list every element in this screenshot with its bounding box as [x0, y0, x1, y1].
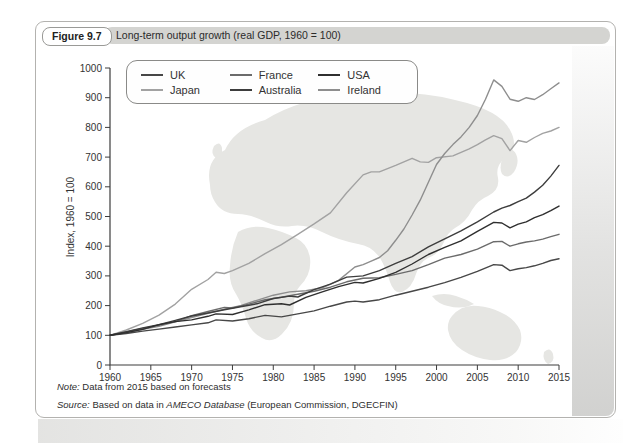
chart-source: Source: Based on data in AMECO Database … [57, 399, 398, 410]
legend-item-australia: Australia [230, 84, 319, 96]
legend-swatch-australia [230, 89, 252, 91]
legend-swatch-usa [318, 74, 340, 76]
figure-title-bar: Long-term output growth (real GDP, 1960 … [104, 27, 610, 44]
map-shape [230, 227, 311, 341]
world-map-background [209, 92, 553, 364]
note-label: Note: [57, 381, 80, 392]
y-tick-label: 800 [85, 122, 102, 133]
page: Long-term output growth (real GDP, 1960 … [0, 0, 640, 445]
y-tick-label: 0 [96, 360, 102, 371]
legend-label-ireland: Ireland [347, 84, 381, 96]
map-shape [448, 306, 521, 361]
source-post: (European Commission, DGECFIN) [245, 399, 398, 410]
x-tick-label: 2010 [507, 372, 530, 383]
chart-legend: UKFranceUSAJapanAustraliaIreland [126, 60, 418, 104]
legend-item-uk: UK [141, 69, 230, 81]
figure-title: Long-term output growth (real GDP, 1960 … [116, 29, 341, 41]
legend-swatch-japan [141, 89, 163, 91]
legend-label-uk: UK [170, 69, 185, 81]
y-tick-label: 1000 [80, 63, 103, 74]
figure-label: Figure 9.7 [42, 27, 112, 46]
legend-swatch-ireland [318, 89, 340, 91]
x-tick-label: 1990 [344, 372, 367, 383]
note-text: Data from 2015 based on forecasts [80, 381, 231, 392]
map-shape [544, 349, 554, 364]
y-tick-label: 700 [85, 152, 102, 163]
legend-item-usa: USA [318, 69, 407, 81]
chart-note: Note: Data from 2015 based on forecasts [57, 381, 231, 392]
legend-label-usa: USA [347, 69, 370, 81]
y-tick-label: 600 [85, 181, 102, 192]
legend-item-japan: Japan [141, 84, 230, 96]
x-tick-label: 2005 [466, 372, 489, 383]
source-pre: Based on data in [90, 399, 167, 410]
source-label: Source: [57, 399, 90, 410]
y-tick-label: 200 [85, 300, 102, 311]
x-tick-label: 2000 [425, 372, 448, 383]
legend-swatch-uk [141, 74, 163, 76]
y-tick-label: 500 [85, 211, 102, 222]
x-tick-label: 1995 [385, 372, 408, 383]
y-tick-label: 100 [85, 330, 102, 341]
y-tick-label: 400 [85, 241, 102, 252]
legend-item-france: France [230, 69, 319, 81]
legend-label-japan: Japan [170, 84, 200, 96]
x-tick-label: 1980 [262, 372, 285, 383]
x-tick-label: 2015 [548, 372, 571, 383]
y-tick-label: 300 [85, 270, 102, 281]
x-tick-label: 1985 [303, 372, 326, 383]
legend-label-france: France [259, 69, 293, 81]
legend-swatch-france [230, 74, 252, 76]
map-shape [432, 294, 474, 308]
y-tick-label: 900 [85, 92, 102, 103]
legend-item-ireland: Ireland [318, 84, 407, 96]
legend-label-australia: Australia [259, 84, 302, 96]
source-emphasis: AMECO Database [166, 399, 244, 410]
